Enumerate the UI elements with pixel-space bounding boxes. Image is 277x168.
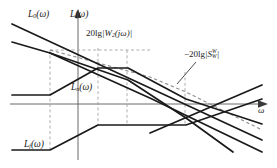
label-20lg-W2: 20lg|W2(jω)| xyxy=(86,29,132,39)
label-Lf: Lf(ω) xyxy=(24,140,44,150)
curve-Lf xyxy=(12,99,262,150)
label-minus20lg-S: −20lg|SWW| xyxy=(184,49,219,60)
label-Ln-arg: (ω) xyxy=(79,82,92,92)
label-L0: L0(ω) xyxy=(28,10,49,20)
label-W2-prefix: 20lg xyxy=(86,28,102,38)
label-Ln: Ln(ω) xyxy=(71,83,92,93)
label-L0-arg: (ω) xyxy=(36,9,49,19)
curve-W2-upper xyxy=(12,42,262,152)
bode-magnitude-figure: L0(ω) L(ω) 20lg|W2(jω)| −20lg|SWW| Ln(ω)… xyxy=(0,0,277,168)
leader-line-S xyxy=(177,62,196,84)
axis-group xyxy=(10,9,268,160)
curve-Ln xyxy=(12,68,262,124)
label-L-omega: L(ω) xyxy=(70,10,88,20)
label-Lf-arg: (ω) xyxy=(31,139,44,149)
curve-L0 xyxy=(12,24,262,140)
label-S-body: |S xyxy=(205,49,212,59)
characteristic-curves xyxy=(12,24,262,152)
annotation-leader xyxy=(177,62,196,84)
label-W2-body: |W xyxy=(102,28,112,38)
construction-guides xyxy=(50,48,185,152)
label-W2-tail: (jω)| xyxy=(115,28,132,38)
curve-falling-branch xyxy=(50,53,233,152)
label-L-omega-arg: (ω) xyxy=(75,9,88,19)
label-S-prefix: −20lg xyxy=(184,49,205,59)
label-omega-axis: ω xyxy=(258,106,264,115)
label-S-tail: | xyxy=(217,49,219,59)
